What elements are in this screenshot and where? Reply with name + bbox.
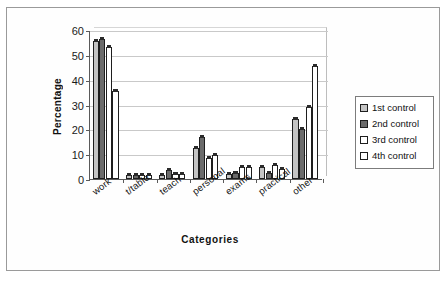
bar: [126, 175, 132, 179]
x-tick-mark: [157, 179, 158, 183]
bar: [292, 119, 298, 179]
bar: [306, 107, 312, 179]
bar-top-face: [167, 168, 171, 171]
bar: [159, 175, 165, 179]
x-tick-mark: [256, 179, 257, 183]
bar-group: [259, 31, 285, 179]
y-tick-label: 30: [72, 100, 84, 111]
y-tick-mark: [86, 180, 90, 181]
bar-top-face: [260, 165, 264, 168]
bar-chart: Percentage Categories 0102030405060 work…: [0, 0, 448, 281]
bar-top-face: [313, 64, 317, 67]
y-tick-label: 50: [72, 50, 84, 61]
bar-group: [159, 31, 185, 179]
y-tick-label: 20: [72, 125, 84, 136]
x-axis-title: Categories: [140, 234, 280, 245]
y-tick-mark: [86, 56, 90, 57]
x-tick-mark: [323, 179, 324, 183]
x-tick-mark: [290, 179, 291, 183]
bar-group: [292, 31, 318, 179]
legend-swatch-icon: [360, 120, 368, 128]
legend-label: 2nd control: [372, 119, 419, 129]
bar-top-face: [127, 173, 131, 176]
bar-top-face: [273, 163, 277, 166]
legend-label: 1st control: [372, 103, 416, 113]
bar-top-face: [300, 127, 304, 130]
bar-top-face: [194, 146, 198, 149]
y-tick-label: 40: [72, 75, 84, 86]
bar-top-face: [107, 45, 111, 48]
bar: [93, 41, 99, 179]
x-tick-mark: [190, 179, 191, 183]
bar: [226, 174, 232, 179]
y-tick-mark: [86, 31, 90, 32]
legend-swatch-icon: [360, 104, 368, 112]
bar-group: [93, 31, 119, 179]
bar-top-face: [113, 89, 117, 92]
bar: [106, 47, 112, 179]
y-tick-mark: [86, 81, 90, 82]
bar-top-face: [240, 165, 244, 168]
y-tick-label: 10: [72, 150, 84, 161]
bar-group: [226, 31, 252, 179]
bar-group: [126, 31, 152, 179]
y-tick-mark: [86, 155, 90, 156]
bar-top-face: [267, 171, 271, 174]
y-tick-mark: [86, 106, 90, 107]
legend-item: 2nd control: [360, 116, 429, 132]
x-tick-mark: [123, 179, 124, 183]
bar: [312, 66, 318, 179]
legend-item: 4th control: [360, 148, 429, 164]
legend-item: 1st control: [360, 100, 429, 116]
chart-legend: 1st control2nd control3rd control4th con…: [355, 96, 434, 169]
bar-top-face: [100, 37, 104, 40]
y-tick-label: 0: [78, 175, 84, 186]
bar-top-face: [307, 105, 311, 108]
legend-swatch-icon: [360, 136, 368, 144]
bar-group: [193, 31, 219, 179]
bar-top-face: [200, 135, 204, 138]
bar: [299, 129, 305, 179]
y-tick-label: 60: [72, 26, 84, 37]
legend-swatch-icon: [360, 152, 368, 160]
bar: [199, 137, 205, 179]
bar-top-face: [213, 153, 217, 156]
legend-label: 3rd control: [372, 135, 417, 145]
bar-top-face: [160, 173, 164, 176]
bar: [112, 91, 118, 179]
bar: [99, 39, 105, 179]
bar-top-face: [247, 165, 251, 168]
bar-top-face: [293, 117, 297, 120]
plot-area: 0102030405060: [89, 31, 322, 180]
legend-label: 4th control: [372, 151, 416, 161]
bar-top-face: [207, 156, 211, 159]
bar: [193, 148, 199, 179]
y-axis-title: Percentage: [52, 62, 68, 152]
x-tick-mark: [223, 179, 224, 183]
legend-item: 3rd control: [360, 132, 429, 148]
bar-top-face: [94, 39, 98, 42]
bar-top-face: [233, 171, 237, 174]
bar: [259, 167, 265, 179]
y-tick-mark: [86, 130, 90, 131]
bar-top-face: [180, 172, 184, 175]
